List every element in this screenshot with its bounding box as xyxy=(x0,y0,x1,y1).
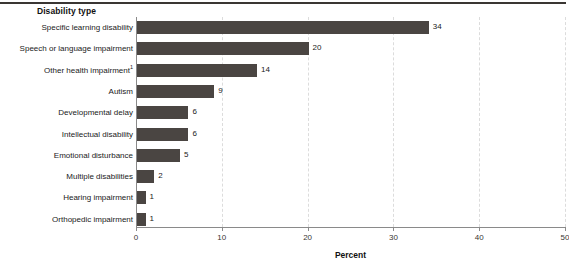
bar-row: 6 xyxy=(136,128,565,141)
category-label: Multiple disabilities xyxy=(0,172,133,181)
bar xyxy=(137,149,180,162)
x-tick-label-10: 10 xyxy=(217,233,226,242)
bar xyxy=(137,213,146,226)
gridline-50 xyxy=(565,17,566,227)
category-label: Developmental delay xyxy=(0,108,133,117)
x-tick-label-30: 30 xyxy=(389,233,398,242)
bar xyxy=(137,191,146,204)
bar-value-label: 5 xyxy=(184,150,188,159)
bar xyxy=(137,170,154,183)
footnote-marker: 1 xyxy=(130,64,133,70)
bar-value-label: 6 xyxy=(192,107,196,116)
bar xyxy=(137,128,188,141)
category-label: Emotional disturbance xyxy=(0,151,133,160)
bar-value-label: 20 xyxy=(313,43,322,52)
bar xyxy=(137,21,429,34)
x-tick-30 xyxy=(393,227,394,231)
bar-row: 6 xyxy=(136,106,565,119)
bar-value-label: 1 xyxy=(150,192,154,201)
bar-row: 2 xyxy=(136,170,565,183)
category-label: Intellectual disability xyxy=(0,130,133,139)
bar xyxy=(137,106,188,119)
bar-row: 14 xyxy=(136,64,565,77)
bar-row: 34 xyxy=(136,21,565,34)
category-label: Orthopedic impairment xyxy=(0,215,133,224)
x-tick-20 xyxy=(308,227,309,231)
bar-value-label: 2 xyxy=(158,171,162,180)
x-tick-label-40: 40 xyxy=(475,233,484,242)
x-axis-line xyxy=(136,227,565,228)
bar-value-label: 9 xyxy=(218,86,222,95)
category-label: Specific learning disability xyxy=(0,23,133,32)
bar-row: 5 xyxy=(136,149,565,162)
bar xyxy=(137,64,257,77)
bar-value-label: 1 xyxy=(150,214,154,223)
x-tick-10 xyxy=(222,227,223,231)
bar-row: 1 xyxy=(136,213,565,226)
x-tick-50 xyxy=(565,227,566,231)
x-tick-label-0: 0 xyxy=(134,233,138,242)
bar-value-label: 6 xyxy=(192,129,196,138)
top-divider xyxy=(0,2,566,4)
category-label: Speech or language impairment xyxy=(0,44,133,53)
x-axis-title: Percent xyxy=(136,250,565,260)
bar-row: 9 xyxy=(136,85,565,98)
x-tick-0 xyxy=(136,227,137,231)
bar-row: 1 xyxy=(136,191,565,204)
x-tick-label-50: 50 xyxy=(561,233,569,242)
bar xyxy=(137,42,309,55)
category-label: Other health impairment1 xyxy=(0,66,133,75)
bar-row: 20 xyxy=(136,42,565,55)
bar xyxy=(137,85,214,98)
x-tick-label-20: 20 xyxy=(303,233,312,242)
plot-area: 01020304050 3420149665211 Percent xyxy=(136,17,565,227)
bar-value-label: 14 xyxy=(261,65,270,74)
category-label: Autism xyxy=(0,87,133,96)
bar-value-label: 34 xyxy=(433,22,442,31)
column-header-disability-type: Disability type xyxy=(0,6,133,16)
x-tick-40 xyxy=(479,227,480,231)
category-label: Hearing impairment xyxy=(0,193,133,202)
